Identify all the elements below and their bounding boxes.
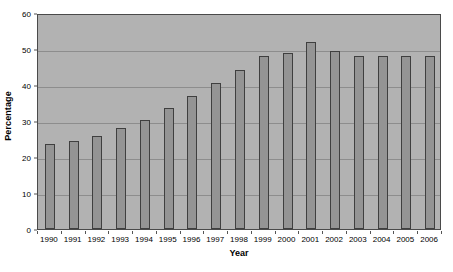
x-axis-tick-labels: 1990199119921993199419951996199719981999…: [37, 231, 441, 247]
x-axis-tick-label-1995: 1995: [159, 235, 177, 244]
x-axis-tick-label-2004: 2004: [373, 235, 391, 244]
x-axis-tick-label-2003: 2003: [349, 235, 367, 244]
x-axis-tick-mark: [298, 231, 299, 234]
x-axis-tick-mark: [393, 231, 394, 234]
x-axis-tick-label-1990: 1990: [40, 235, 58, 244]
x-axis-tick-mark: [85, 231, 86, 234]
x-axis-tick-mark: [108, 231, 109, 234]
x-axis-tick-mark: [156, 231, 157, 234]
bar-1996: [187, 96, 197, 229]
bar-1991: [69, 141, 79, 229]
y-axis-tick-label: 0: [27, 226, 31, 235]
y-axis-tick-label: 60: [22, 10, 31, 19]
y-axis-tick-label: 40: [22, 82, 31, 91]
y-axis-tick-label: 10: [22, 190, 31, 199]
x-axis-tick-label-1997: 1997: [206, 235, 224, 244]
bar-2001: [306, 42, 316, 229]
bar-1992: [92, 136, 102, 229]
x-axis-tick-mark: [417, 231, 418, 234]
bar-2000: [283, 53, 293, 229]
bar-2006: [425, 56, 435, 229]
y-axis-tick-label: 20: [22, 154, 31, 163]
x-axis-tick-mark: [275, 231, 276, 234]
x-axis-tick-mark: [37, 231, 38, 234]
x-axis-tick-label-2005: 2005: [396, 235, 414, 244]
x-axis-tick-label-1999: 1999: [254, 235, 272, 244]
x-axis-tick-mark: [132, 231, 133, 234]
bar-2005: [401, 56, 411, 229]
bars-layer: [38, 15, 440, 229]
y-axis-tick-label: 30: [22, 118, 31, 127]
x-axis-tick-label-1993: 1993: [111, 235, 129, 244]
bar-2004: [378, 56, 388, 229]
x-axis-tick-mark: [322, 231, 323, 234]
bar-2002: [330, 51, 340, 229]
x-axis-tick-mark: [346, 231, 347, 234]
bar-2003: [354, 56, 364, 229]
y-axis-tick-labels: 0102030405060: [14, 14, 34, 230]
x-axis-tick-label-1996: 1996: [183, 235, 201, 244]
x-axis-title: Year: [37, 248, 441, 258]
bar-1995: [164, 108, 174, 229]
x-axis-tick-mark: [227, 231, 228, 234]
bar-1993: [116, 128, 126, 229]
x-axis-tick-mark: [441, 231, 442, 234]
y-axis-tick-label: 50: [22, 46, 31, 55]
x-axis-tick-label-2001: 2001: [301, 235, 319, 244]
x-axis-tick-label-2002: 2002: [325, 235, 343, 244]
bar-1997: [211, 83, 221, 229]
bar-1990: [45, 144, 55, 229]
bar-1994: [140, 120, 150, 229]
x-axis-tick-label-1992: 1992: [88, 235, 106, 244]
x-axis-tick-mark: [180, 231, 181, 234]
x-axis-tick-label-1994: 1994: [135, 235, 153, 244]
x-axis-tick-label-2000: 2000: [278, 235, 296, 244]
x-axis-tick-label-1998: 1998: [230, 235, 248, 244]
x-axis-tick-label-1991: 1991: [64, 235, 82, 244]
bar-chart: Percentage 0102030405060 199019911992199…: [0, 0, 453, 272]
x-axis-tick-mark: [251, 231, 252, 234]
x-axis-tick-mark: [61, 231, 62, 234]
x-axis-tick-mark: [203, 231, 204, 234]
x-axis-tick-label-2006: 2006: [420, 235, 438, 244]
bar-1998: [235, 70, 245, 229]
x-axis-tick-mark: [370, 231, 371, 234]
bar-1999: [259, 56, 269, 229]
y-axis-title-label: Percentage: [3, 91, 13, 141]
plot-area: [37, 14, 441, 230]
